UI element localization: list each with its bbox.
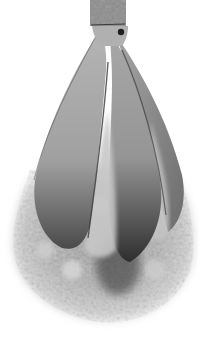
bud-object <box>0 0 199 338</box>
cap <box>90 0 126 26</box>
photo: Bud-shaped object with petals and crumbl… <box>0 0 199 338</box>
hole-icon <box>118 29 124 35</box>
